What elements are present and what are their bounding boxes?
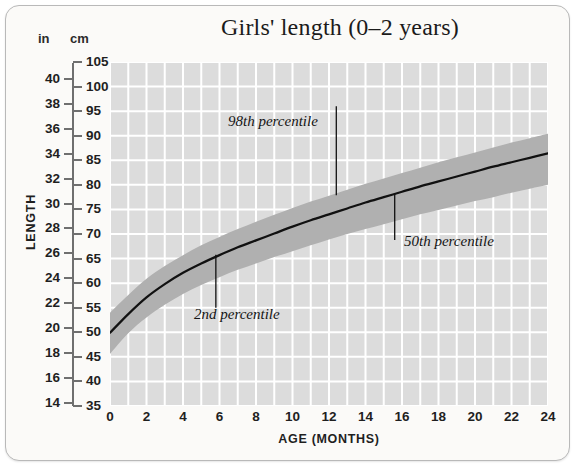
annotation-50th-percentile: 50th percentile [404, 233, 494, 250]
y-tick-label-in: 38 [34, 97, 60, 111]
y-tick-label-in: 36 [34, 122, 60, 136]
y-tick-cm [73, 61, 82, 63]
annotation-2nd-percentile: 2nd percentile [194, 306, 280, 323]
y-tick-cm [73, 258, 82, 260]
y-tick-cm [73, 405, 82, 407]
x-axis-title: AGE (MONTHS) [110, 432, 548, 446]
x-tick-label: 20 [460, 409, 490, 424]
x-tick-label: 16 [387, 409, 417, 424]
y-tick-in [64, 352, 73, 354]
y-tick-cm [73, 331, 82, 333]
x-tick-label: 10 [278, 409, 308, 424]
y-tick-in [64, 153, 73, 155]
y-tick-in [64, 128, 73, 130]
y-tick-label-in: 22 [34, 296, 60, 310]
x-tick-label: 18 [424, 409, 454, 424]
y-tick-label-in: 40 [34, 72, 60, 86]
y-tick-label-in: 14 [34, 396, 60, 410]
y-tick-cm [73, 159, 82, 161]
y-tick-label-in: 34 [34, 147, 60, 161]
y-tick-cm [73, 307, 82, 309]
y-tick-in [64, 227, 73, 229]
y-tick-in [64, 78, 73, 80]
y-tick-cm [73, 282, 82, 284]
x-tick-label: 4 [168, 409, 198, 424]
y-tick-in [64, 203, 73, 205]
y-tick-in [64, 327, 73, 329]
y-tick-cm [73, 184, 82, 186]
y-tick-label-in: 24 [34, 271, 60, 285]
page-title: Girls' length (0–2 years) [120, 14, 560, 41]
x-tick-label: 0 [95, 409, 125, 424]
y-tick-in [64, 103, 73, 105]
x-tick-label: 12 [314, 409, 344, 424]
y-tick-cm [73, 208, 82, 210]
x-tick-label: 8 [241, 409, 271, 424]
y-tick-cm [73, 135, 82, 137]
y-tick-label-in: 20 [34, 321, 60, 335]
y-tick-in [64, 252, 73, 254]
y-tick-label-in: 32 [34, 172, 60, 186]
y-tick-in [64, 178, 73, 180]
annotation-98th-percentile: 98th percentile [228, 113, 318, 130]
y-tick-label-in: 30 [34, 197, 60, 211]
y-tick-in [64, 402, 73, 404]
x-tick-label: 14 [351, 409, 381, 424]
y-tick-cm [73, 233, 82, 235]
y-tick-in [64, 302, 73, 304]
y-tick-cm [73, 110, 82, 112]
growth-chart-page: Girls' length (0–2 years) in cm LENGTH 1… [0, 0, 577, 468]
x-tick-label: 6 [205, 409, 235, 424]
x-tick-label: 24 [533, 409, 563, 424]
y-tick-cm [73, 86, 82, 88]
y-axis-unit-centimeters: cm [70, 31, 89, 46]
x-tick-label: 2 [132, 409, 162, 424]
y-tick-in [64, 277, 73, 279]
y-tick-label-in: 16 [34, 371, 60, 385]
y-tick-label-in: 18 [34, 346, 60, 360]
y-tick-cm [73, 380, 82, 382]
y-tick-in [64, 377, 73, 379]
y-tick-label-in: 28 [34, 221, 60, 235]
x-tick-label: 22 [497, 409, 527, 424]
y-tick-cm [73, 356, 82, 358]
y-tick-label-in: 26 [34, 246, 60, 260]
y-axis-unit-inches: in [38, 31, 50, 46]
